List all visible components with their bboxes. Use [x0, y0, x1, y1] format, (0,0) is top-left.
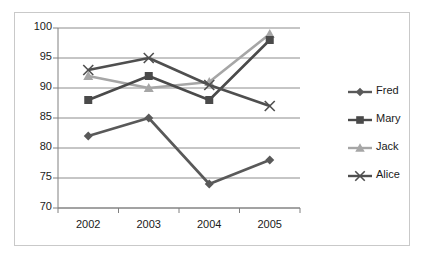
y-axis-tick-label: 90	[10, 80, 52, 92]
y-axis-tick-label: 70	[10, 200, 52, 212]
legend-label-fred: Fred	[376, 84, 399, 96]
x-axis-tick-label: 2004	[179, 218, 239, 230]
series-jack	[83, 29, 275, 92]
marker-square	[145, 72, 153, 80]
y-axis-tick-label: 85	[10, 110, 52, 122]
x-axis-tick-label: 2005	[240, 218, 300, 230]
y-axis-tick-label: 75	[10, 170, 52, 182]
marker-square	[205, 96, 213, 104]
x-axis-tick-label: 2003	[119, 218, 179, 230]
marker-square	[266, 36, 274, 44]
legend-item-fred[interactable]	[348, 88, 372, 97]
line-chart: 1009590858075702002200320042005FredMaryJ…	[0, 0, 428, 260]
marker-diamond	[84, 132, 93, 141]
marker-square	[84, 96, 92, 104]
series-line	[88, 118, 270, 184]
legend-label-alice: Alice	[376, 168, 400, 180]
x-axis-tick-label: 2002	[58, 218, 118, 230]
legend-label-jack: Jack	[376, 140, 399, 152]
series-line	[88, 40, 270, 100]
marker-diamond	[265, 156, 274, 165]
marker-diamond	[356, 88, 365, 97]
series-mary	[84, 36, 274, 104]
legend-item-jack[interactable]	[348, 143, 372, 152]
y-axis-tick-label: 95	[10, 50, 52, 62]
y-axis-tick-label: 80	[10, 140, 52, 152]
marker-square	[356, 116, 364, 124]
legend-item-alice[interactable]	[348, 171, 372, 181]
legend-item-mary[interactable]	[348, 116, 372, 124]
y-axis-tick-label: 100	[10, 20, 52, 32]
series-line	[88, 34, 270, 88]
series-fred	[84, 114, 275, 189]
legend-label-mary: Mary	[376, 112, 400, 124]
